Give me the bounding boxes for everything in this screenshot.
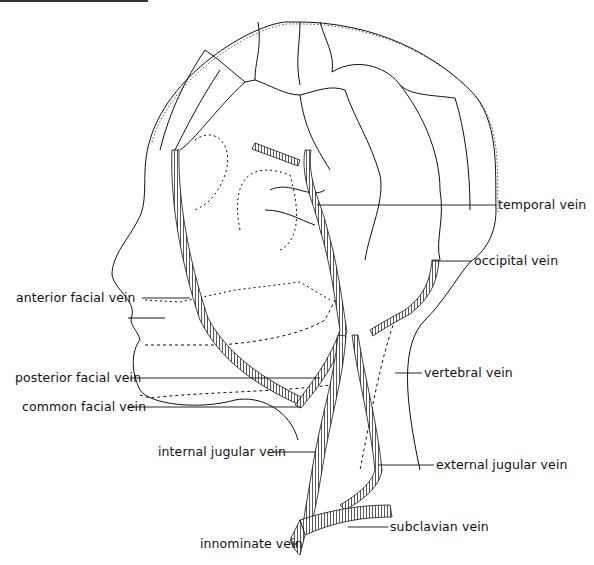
- scalp-vein-network: [160, 22, 470, 260]
- head-illustration: [0, 0, 594, 565]
- label-anterior-facial-vein: anterior facial vein: [16, 291, 136, 305]
- label-internal-jugular-vein: internal jugular vein: [158, 445, 286, 459]
- label-innominate-vein: innominate vein: [200, 537, 303, 551]
- label-external-jugular-vein: external jugular vein: [436, 458, 568, 472]
- label-temporal-vein: temporal vein: [498, 198, 586, 212]
- label-occipital-vein: occipital vein: [474, 254, 558, 268]
- label-common-facial-vein: common facial vein: [22, 400, 146, 414]
- label-subclavian-vein: subclavian vein: [390, 520, 489, 534]
- vein-diagram: temporal vein occipital vein anterior fa…: [0, 0, 594, 565]
- label-vertebral-vein: vertebral vein: [424, 366, 513, 380]
- label-posterior-facial-vein: posterior facial vein: [15, 371, 141, 385]
